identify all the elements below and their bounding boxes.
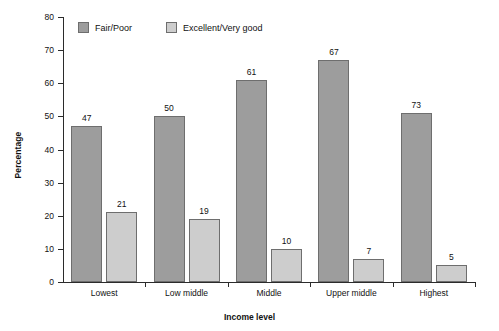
y-axis-tick [58, 83, 64, 84]
y-axis-tick-label: 20 [22, 211, 54, 221]
bar-value-label: 47 [67, 113, 107, 123]
bar-fair-poor [318, 60, 349, 282]
bar-value-label: 19 [184, 206, 224, 216]
x-axis-title: Income level [0, 312, 499, 322]
x-axis-tick [228, 282, 229, 287]
bar-excellent-very-good [436, 265, 467, 282]
bar-excellent-very-good [353, 259, 384, 282]
y-axis-tick-label: 10 [22, 244, 54, 254]
bar-value-label: 7 [349, 246, 389, 256]
x-axis-category-label: Upper middle [306, 288, 396, 298]
bar-fair-poor [71, 126, 102, 282]
x-axis-tick [310, 282, 311, 287]
bar-value-label: 73 [396, 100, 436, 110]
bar-fair-poor [236, 80, 267, 282]
y-axis-tick [58, 150, 64, 151]
y-axis-tick [58, 216, 64, 217]
legend-item-excellent-very-good[interactable]: Excellent/Very good [166, 22, 263, 33]
y-axis-tick-label: 0 [22, 277, 54, 287]
y-axis-tick-label: 60 [22, 78, 54, 88]
y-axis-tick-label: 40 [22, 145, 54, 155]
x-axis-category-label: Highest [389, 288, 479, 298]
legend-swatch-icon [78, 22, 89, 33]
y-axis-tick [58, 249, 64, 250]
legend-label: Excellent/Very good [183, 23, 263, 33]
x-axis-tick [475, 282, 476, 287]
x-axis-category-label: Low middle [142, 288, 232, 298]
bar-value-label: 50 [149, 103, 189, 113]
x-axis-category-label: Lowest [59, 288, 149, 298]
bar-value-label: 61 [232, 67, 272, 77]
y-axis-tick-label: 50 [22, 111, 54, 121]
bar-value-label: 21 [102, 199, 142, 209]
bar-fair-poor [154, 116, 185, 282]
bar-excellent-very-good [106, 212, 137, 282]
y-axis-tick [58, 50, 64, 51]
legend-item-fair-poor[interactable]: Fair/Poor [78, 22, 132, 33]
x-axis-tick [145, 282, 146, 287]
x-axis-category-label: Middle [224, 288, 314, 298]
y-axis-tick [58, 183, 64, 184]
legend-swatch-icon [166, 22, 177, 33]
y-axis-tick [58, 282, 64, 283]
y-axis-tick-label: 80 [22, 12, 54, 22]
bar-chart: Percentage Income level 0102030405060708… [0, 0, 499, 331]
y-axis-tick [58, 17, 64, 18]
y-axis-tick [58, 116, 64, 117]
bar-value-label: 10 [267, 236, 307, 246]
x-axis-tick [393, 282, 394, 287]
y-axis-tick-label: 70 [22, 45, 54, 55]
bar-excellent-very-good [271, 249, 302, 282]
legend-label: Fair/Poor [95, 23, 132, 33]
bar-value-label: 67 [314, 47, 354, 57]
y-axis-tick-label: 30 [22, 178, 54, 188]
bar-fair-poor [401, 113, 432, 282]
x-axis-line [63, 282, 475, 283]
bar-excellent-very-good [189, 219, 220, 282]
bar-value-label: 5 [431, 252, 471, 262]
